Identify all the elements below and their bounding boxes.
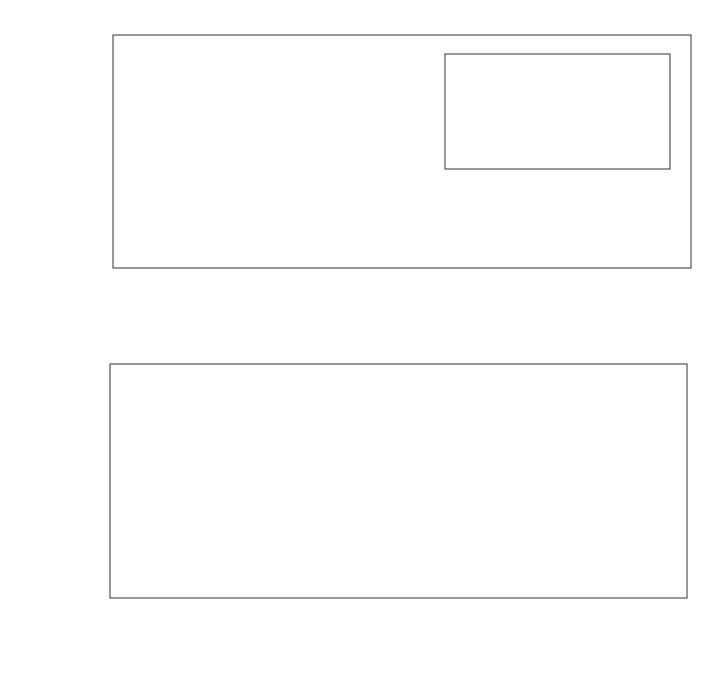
top-plot (0, 0, 691, 268)
inset-plot-area (445, 54, 670, 169)
bottom-plot-area (110, 364, 687, 598)
inset-plot (445, 54, 670, 169)
figure (0, 0, 725, 690)
